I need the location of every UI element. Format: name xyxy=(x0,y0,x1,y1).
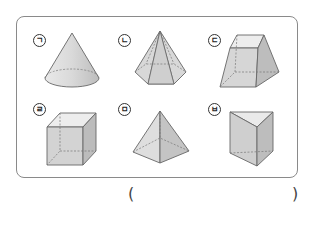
cone-icon xyxy=(40,28,106,92)
label-nieun: ㄴ xyxy=(118,34,131,47)
triangular-prism-icon xyxy=(228,108,280,170)
answer-field[interactable] xyxy=(140,186,290,204)
answer-open-paren: ( xyxy=(128,184,134,203)
square-frustum-icon xyxy=(216,32,286,90)
square-pyramid-icon xyxy=(130,108,194,168)
hexagonal-pyramid-icon xyxy=(132,28,190,92)
label-bieup: ㅂ xyxy=(208,103,221,116)
cube-icon xyxy=(45,110,101,168)
answer-close-paren: ) xyxy=(292,184,298,203)
